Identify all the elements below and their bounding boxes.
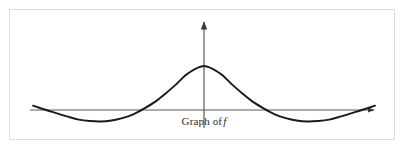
graph-canvas	[0, 0, 408, 153]
figure-container: Graph off	[0, 0, 408, 153]
